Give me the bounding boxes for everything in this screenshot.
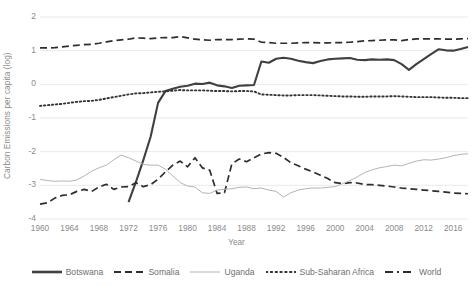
- legend-label: Botswana: [66, 267, 104, 277]
- legend-label: Sub-Saharan Africa: [300, 267, 375, 277]
- line-dashed-dark-icon: [114, 268, 144, 276]
- series-line-sub-saharan-africa: [40, 90, 468, 106]
- x-axis-title: Year: [0, 238, 473, 247]
- legend-label: World: [419, 267, 441, 277]
- legend-label: Uganda: [224, 267, 254, 277]
- line-solid-thick-dark-icon: [32, 268, 62, 276]
- legend-item[interactable]: Somalia: [114, 267, 179, 277]
- line-dashdot-dark-icon: [385, 268, 415, 276]
- line-solid-thin-gray-icon: [190, 268, 220, 276]
- legend-item[interactable]: Botswana: [32, 267, 104, 277]
- series-line-somalia: [40, 153, 468, 205]
- legend-item[interactable]: World: [385, 267, 441, 277]
- chart-legend: BotswanaSomaliaUgandaSub-Saharan AfricaW…: [0, 262, 473, 282]
- line-dotted-dark-icon: [266, 268, 296, 276]
- series-line-world: [40, 37, 468, 48]
- legend-item[interactable]: Uganda: [190, 267, 254, 277]
- chart-figure: Carbon Emissions per capita (log) 210-1-…: [0, 0, 473, 286]
- series-line-botswana: [129, 47, 468, 202]
- series-line-uganda: [40, 154, 468, 197]
- legend-label: Somalia: [148, 267, 179, 277]
- legend-item[interactable]: Sub-Saharan Africa: [266, 267, 375, 277]
